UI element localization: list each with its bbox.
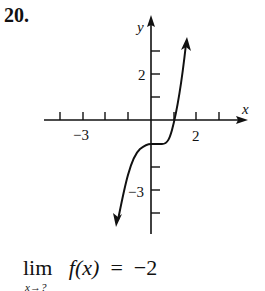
x-tick-label-2: 2 bbox=[192, 128, 200, 144]
x-axis-label: x bbox=[241, 101, 249, 117]
y-tick-label-2: 2 bbox=[138, 67, 146, 83]
lim-text: lim bbox=[23, 255, 52, 280]
limit-formula: lim x→? f(x) = −2 bbox=[23, 255, 157, 281]
limit-value: −2 bbox=[134, 255, 157, 280]
x-tick-label-neg3: −3 bbox=[73, 127, 89, 143]
y-tick-label-neg3: −3 bbox=[128, 184, 144, 200]
y-axis-label: y bbox=[135, 19, 144, 35]
equals-sign: = bbox=[110, 255, 122, 280]
curve-bottom-arrow-icon bbox=[113, 213, 122, 227]
y-ticks bbox=[151, 51, 160, 213]
lim-subscript: x→? bbox=[25, 281, 46, 291]
function-expression: f(x) bbox=[69, 255, 100, 280]
x-ticks bbox=[60, 112, 219, 120]
graph: −3 2 2 −3 x y bbox=[0, 0, 265, 250]
